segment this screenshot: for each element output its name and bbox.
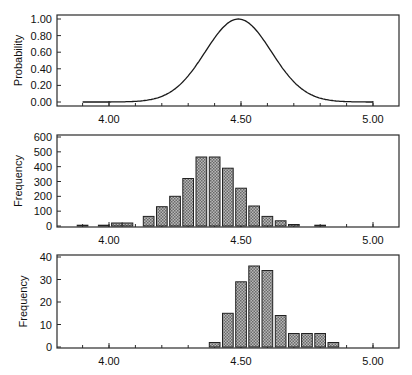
plot-frame bbox=[57, 15, 399, 106]
histogram-bar bbox=[289, 334, 300, 348]
probability-panel: 0.000.200.400.600.801.004.004.505.00Prob… bbox=[12, 13, 399, 125]
y-tick-label: 100 bbox=[34, 205, 52, 217]
histogram-bar bbox=[209, 157, 220, 226]
histogram-bar bbox=[77, 225, 88, 226]
histogram-bar bbox=[112, 223, 123, 226]
figure: 0.000.200.400.600.801.004.004.505.00Prob… bbox=[0, 0, 412, 375]
histogram-bar bbox=[302, 334, 313, 348]
y-tick-label: 10 bbox=[40, 319, 52, 331]
histogram-bar bbox=[122, 223, 133, 226]
histogram-bar bbox=[262, 216, 273, 226]
y-tick-label: 600 bbox=[34, 131, 52, 143]
y-tick-label: 40 bbox=[40, 251, 52, 263]
histogram-bar bbox=[249, 266, 260, 347]
y-tick-label: 200 bbox=[34, 190, 52, 202]
y-tick-label: 0.40 bbox=[31, 63, 52, 75]
y-axis-title: Frequency bbox=[17, 275, 29, 327]
y-tick-label: 0.00 bbox=[31, 96, 52, 108]
histogram-bar bbox=[275, 221, 286, 226]
y-tick-label: 300 bbox=[34, 176, 52, 188]
histogram-bar bbox=[315, 334, 326, 348]
x-tick-label: 4.50 bbox=[230, 234, 251, 246]
y-tick-label: 0.60 bbox=[31, 46, 52, 58]
x-tick-label: 5.00 bbox=[362, 234, 383, 246]
histogram-bar bbox=[275, 316, 286, 348]
x-tick-label: 5.00 bbox=[362, 355, 383, 367]
histogram-bar bbox=[236, 282, 247, 347]
y-tick-label: 0 bbox=[46, 341, 52, 353]
y-axis-title: Frequency bbox=[12, 155, 24, 207]
histogram-bar bbox=[289, 225, 300, 227]
y-axis-title: Probability bbox=[12, 34, 24, 86]
histogram-bar bbox=[183, 179, 194, 227]
x-tick-label: 4.00 bbox=[98, 113, 119, 125]
y-tick-label: 0.20 bbox=[31, 79, 52, 91]
histogram-bar bbox=[209, 343, 220, 348]
chart-canvas: 0.000.200.400.600.801.004.004.505.00Prob… bbox=[0, 0, 412, 375]
x-tick-label: 5.00 bbox=[362, 113, 383, 125]
histogram-bar bbox=[196, 157, 207, 226]
histogram-bar bbox=[223, 313, 234, 347]
y-tick-label: 1.00 bbox=[31, 13, 52, 25]
histogram-bar bbox=[315, 225, 326, 226]
histogram-bar bbox=[143, 216, 154, 226]
y-tick-label: 0 bbox=[46, 220, 52, 232]
y-tick-label: 400 bbox=[34, 161, 52, 173]
histogram-bar bbox=[223, 168, 234, 226]
histogram-bar bbox=[98, 225, 109, 226]
histogram-bar bbox=[262, 271, 273, 348]
frequency-histogram-small-panel: 0102030404.004.505.00Frequency bbox=[17, 251, 399, 367]
y-tick-label: 30 bbox=[40, 274, 52, 286]
x-tick-label: 4.50 bbox=[230, 113, 251, 125]
histogram-bar bbox=[236, 188, 247, 226]
frequency-histogram-panel: 01002003004005006004.004.505.00Frequency bbox=[12, 131, 399, 246]
x-tick-label: 4.00 bbox=[98, 234, 119, 246]
y-tick-label: 500 bbox=[34, 146, 52, 158]
histogram-bar bbox=[249, 206, 260, 226]
histogram-bar bbox=[170, 196, 181, 226]
x-tick-label: 4.50 bbox=[230, 355, 251, 367]
y-tick-label: 20 bbox=[40, 296, 52, 308]
x-tick-label: 4.00 bbox=[98, 355, 119, 367]
histogram-bar bbox=[157, 207, 168, 226]
y-tick-label: 0.80 bbox=[31, 30, 52, 42]
histogram-bar bbox=[328, 343, 339, 348]
probability-curve bbox=[83, 19, 373, 102]
